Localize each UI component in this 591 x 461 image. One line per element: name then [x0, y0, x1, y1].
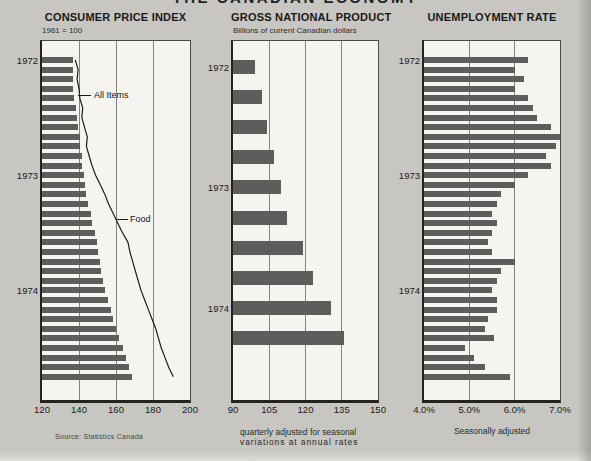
cpi-x-tick-label: 140 — [71, 404, 87, 415]
unemployment-bar — [424, 95, 528, 101]
unemployment-bar — [424, 230, 492, 236]
unemployment-footnote: Seasonally adjusted — [422, 426, 562, 436]
unemployment-bar — [424, 143, 556, 149]
unemployment-bar — [424, 105, 533, 111]
unemployment-year-label: 1974 — [386, 285, 420, 296]
unemployment-year-label: 1973 — [386, 170, 420, 181]
unemployment-bar — [424, 163, 551, 169]
unemployment-bar — [424, 345, 465, 351]
unemployment-bar — [424, 335, 494, 341]
gnp-panel-title: GROSS NATIONAL PRODUCT — [231, 11, 380, 23]
canadian-economy-charts-page: THE CANADIAN ECONOMY CONSUMER PRICE INDE… — [0, 0, 591, 461]
unemployment-bar — [424, 220, 497, 226]
page-right-shadow — [577, 0, 591, 461]
gnp-bar — [233, 241, 303, 255]
unemployment-bar — [424, 172, 528, 178]
unemployment-bar — [424, 297, 497, 303]
cpi-panel-subtitle: 1961 = 100 — [42, 26, 82, 35]
gnp-panel-subtitle: Billions of current Canadian dollars — [233, 26, 357, 35]
gnp-bar — [233, 211, 287, 225]
gnp-bar — [233, 301, 331, 315]
gnp-bar — [233, 150, 274, 164]
unemployment-bar — [424, 115, 537, 121]
gnp-bar — [233, 90, 262, 104]
unemployment-bar — [424, 374, 510, 380]
unemployment-bar — [424, 278, 497, 284]
unemployment-bar — [424, 201, 497, 207]
gnp-x-tick-label: 105 — [261, 404, 277, 415]
unemployment-bar — [424, 57, 528, 63]
cpi-x-tick-label: 160 — [108, 404, 124, 415]
unemployment-bar — [424, 316, 488, 322]
source-note: Source: Statistics Canada — [55, 433, 143, 440]
cpi-panel-title: CONSUMER PRICE INDEX — [40, 11, 191, 23]
unemployment-bar — [424, 239, 488, 245]
gnp-x-tick-label: 135 — [334, 404, 350, 415]
page-title: THE CANADIAN ECONOMY — [0, 0, 591, 6]
cpi-x-tick-label: 180 — [145, 404, 161, 415]
gnp-bar — [233, 120, 267, 134]
unemployment-bar — [424, 67, 515, 73]
unemployment-bar — [424, 134, 560, 140]
gnp-year-label: 1973 — [195, 182, 229, 193]
unemployment-x-tick-label: 7.0% — [549, 404, 571, 415]
unemployment-bar — [424, 191, 501, 197]
unemployment-bar — [424, 86, 515, 92]
cpi-year-label: 1974 — [4, 285, 38, 296]
gnp-footnote-line2: variations at annual rates — [240, 437, 358, 447]
unemployment-bar — [424, 287, 492, 293]
unemployment-bar — [424, 268, 501, 274]
unemployment-x-tick-label: 4.0% — [413, 404, 435, 415]
page-bottom-edge — [0, 449, 591, 461]
unemployment-bar — [424, 182, 515, 188]
unemployment-panel-title: UNEMPLOYMENT RATE — [422, 11, 562, 23]
unemployment-plot-area — [422, 40, 561, 403]
unemployment-x-tick-label: 6.0% — [504, 404, 526, 415]
unemployment-bar — [424, 249, 492, 255]
gnp-footnote-line1: quarterly adjusted for seasonal — [240, 427, 356, 437]
gnp-x-tick-label: 90 — [228, 404, 239, 415]
gnp-bar — [233, 180, 281, 194]
unemployment-bar — [424, 364, 485, 370]
cpi-plot-area: All Items Food — [40, 40, 191, 403]
gnp-bar — [233, 331, 344, 345]
unemployment-bar — [424, 124, 551, 130]
cpi-x-tick-label: 200 — [182, 404, 198, 415]
unemployment-bar — [424, 259, 515, 265]
cpi-x-tick-label: 120 — [34, 404, 50, 415]
gnp-x-tick-label: 150 — [370, 404, 386, 415]
gnp-gridline — [341, 41, 342, 400]
gnp-year-label: 1974 — [195, 303, 229, 314]
cpi-year-label: 1972 — [4, 55, 38, 66]
unemployment-bar — [424, 76, 524, 82]
unemployment-bar — [424, 326, 485, 332]
gnp-bar — [233, 271, 313, 285]
cpi-year-label: 1973 — [4, 170, 38, 181]
gnp-bar — [233, 60, 255, 74]
gnp-gridline — [305, 41, 306, 400]
gnp-plot-area — [231, 40, 379, 403]
gnp-year-label: 1972 — [195, 62, 229, 73]
unemployment-bar — [424, 307, 497, 313]
food-line — [42, 41, 190, 400]
unemployment-year-label: 1972 — [386, 55, 420, 66]
unemployment-bar — [424, 211, 492, 217]
unemployment-bar — [424, 355, 474, 361]
unemployment-bar — [424, 153, 546, 159]
gnp-x-tick-label: 120 — [298, 404, 314, 415]
unemployment-x-tick-label: 5.0% — [459, 404, 481, 415]
